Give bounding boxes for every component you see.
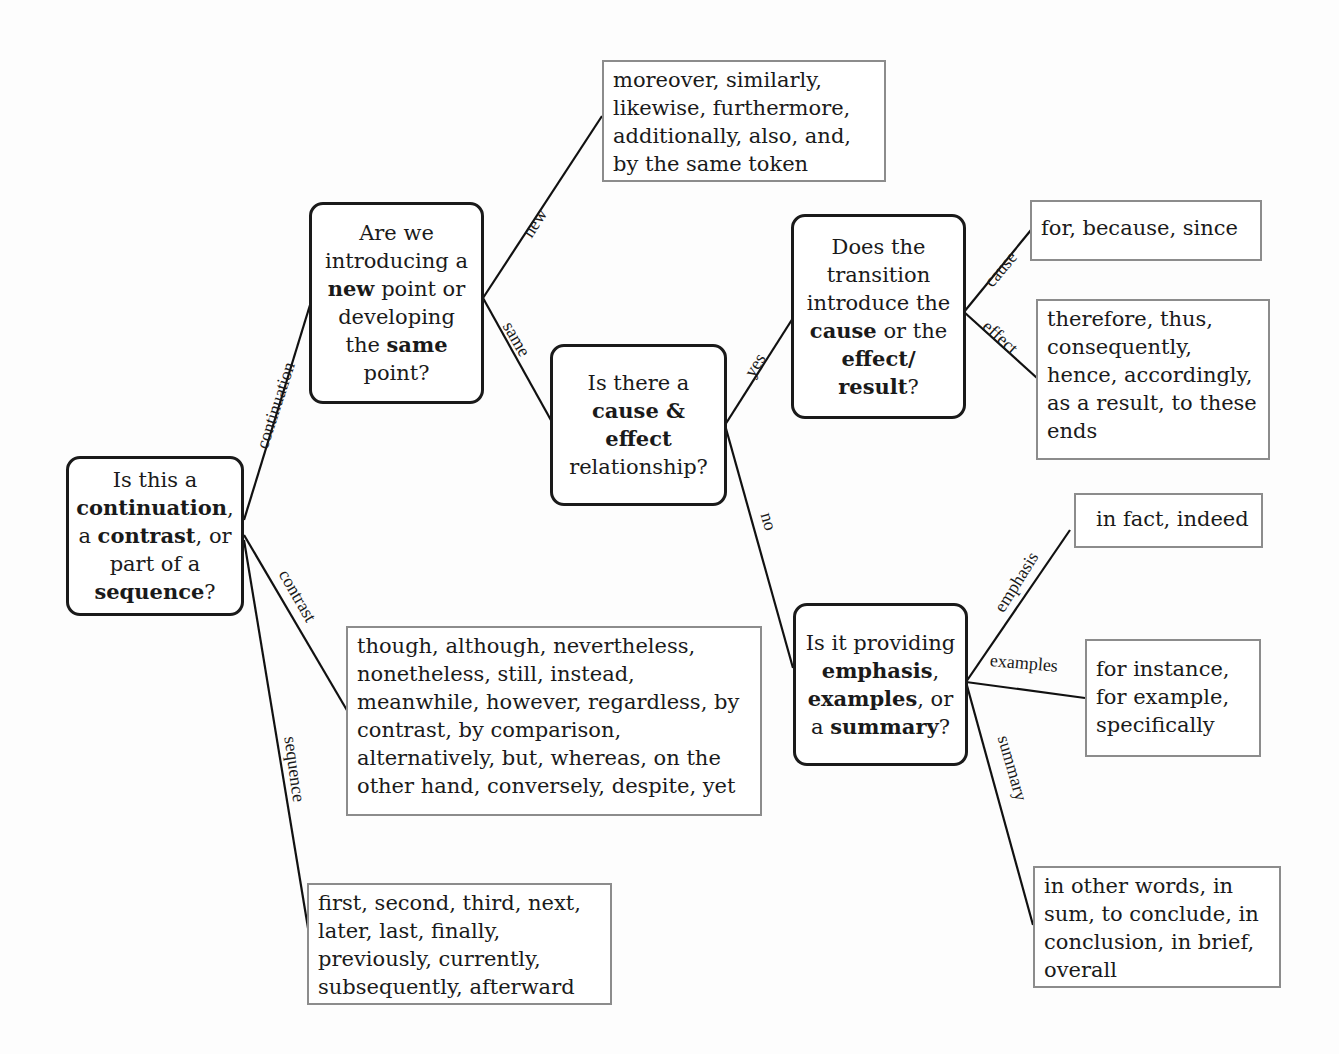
answer-examples: for instance, for example, specifically [1085,639,1261,757]
answer-emphasis: in fact, indeed [1074,493,1263,548]
answer-effect: therefore, thus, consequently, hence, ac… [1036,299,1270,460]
answer-summary: in other words, in sum, to conclude, in … [1033,866,1281,988]
answer-new-point: moreover, similarly, likewise, furthermo… [602,60,886,182]
question-new-or-same: Are we introducing a new point or develo… [309,202,484,404]
question-cause-effect: Is there a cause & effect relationship? [550,344,727,506]
question-emphasis-examples-summary: Is it providing emphasis, examples, or a… [793,603,968,766]
question-cause-or-result: Does the transition introduce the cause … [791,214,966,419]
answer-cause: for, because, since [1030,200,1262,261]
question-root: Is this a continuation, a contrast, or p… [66,456,244,616]
answer-contrast: though, although, nevertheless, nonethel… [346,626,762,816]
answer-sequence: first, second, third, next, later, last,… [307,883,612,1005]
transition-words-decision-tree: continuation contrast sequence new same … [0,0,1339,1054]
